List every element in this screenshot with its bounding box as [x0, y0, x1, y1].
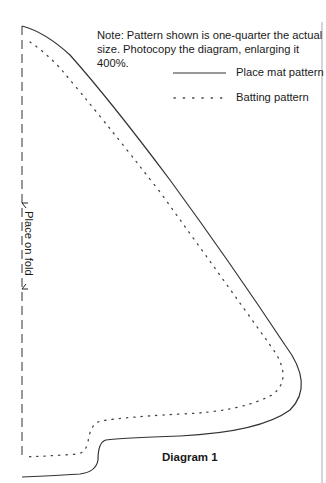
fold-label: Place on fold	[23, 211, 35, 276]
batting-outline	[24, 42, 283, 457]
legend-label-batting: Batting pattern	[236, 91, 309, 103]
fold-arrow-top-icon	[22, 203, 28, 208]
diagram-caption: Diagram 1	[162, 451, 218, 463]
note-text: Note: Pattern shown is one-quarter the a…	[97, 28, 325, 70]
legend-label-place-mat: Place mat pattern	[236, 66, 324, 78]
fold-arrow-bottom-icon	[22, 284, 28, 289]
